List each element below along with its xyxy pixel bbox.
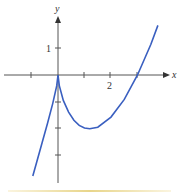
function-graph: x y 2 1	[0, 0, 179, 193]
function-curve	[33, 25, 158, 176]
x-axis-arrow-icon	[163, 72, 170, 78]
page-edge-band	[8, 190, 171, 192]
y-tick-label-1: 1	[46, 43, 51, 54]
y-axis-arrow-icon	[55, 16, 61, 23]
x-tick-label-2: 2	[107, 80, 112, 91]
y-axis-label: y	[54, 3, 60, 14]
x-axis-label: x	[171, 69, 177, 80]
